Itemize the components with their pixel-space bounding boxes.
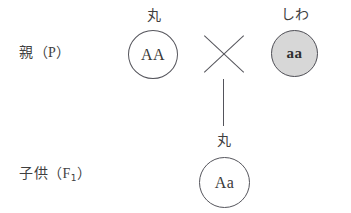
- row-label-offspring-paren-open: （: [48, 166, 63, 181]
- descent-line: [223, 79, 224, 126]
- row-label-parent-paren-close: ）: [56, 45, 71, 60]
- mendel-cross-diagram: 親（P） 子供（F1） 丸 AA しわ aa 丸 Aa: [0, 0, 351, 213]
- row-label-offspring-paren-close: ）: [77, 166, 92, 181]
- genotype-circle-parent-right: aa: [271, 30, 318, 77]
- cross-symbol-icon: [203, 34, 245, 74]
- row-label-offspring-generation: F: [63, 166, 71, 181]
- phenotype-label-parent-right: しわ: [268, 7, 322, 21]
- row-label-offspring-generation-subscript: 1: [71, 173, 77, 183]
- phenotype-label-offspring: 丸: [198, 133, 250, 147]
- row-label-offspring: 子供（F1）: [19, 166, 92, 181]
- genotype-text-parent-left: AA: [141, 47, 165, 63]
- genotype-circle-offspring: Aa: [199, 157, 250, 208]
- genotype-circle-parent-left: AA: [128, 30, 178, 79]
- phenotype-label-parent-left: 丸: [128, 8, 180, 22]
- row-label-parent-main: 親: [19, 44, 34, 60]
- row-label-offspring-main: 子供: [19, 165, 48, 181]
- genotype-text-offspring: Aa: [215, 175, 235, 191]
- row-label-parent: 親（P）: [19, 45, 71, 60]
- row-label-parent-paren-open: （: [34, 45, 49, 60]
- genotype-text-parent-right: aa: [287, 46, 303, 61]
